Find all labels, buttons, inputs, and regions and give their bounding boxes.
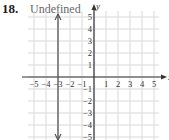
y-tick-label: 3 [88,36,92,46]
x-tick-label: 1 [104,79,108,89]
x-tick-label: 5 [152,79,156,89]
y-tick-label: 1 [88,60,92,70]
coordinate-plane: xy −5−4−3−2−11234554321−1−2−3−4−5 [0,0,169,140]
x-axis-arrow-icon [161,75,167,80]
axes: xy [22,1,169,140]
y-tick-label: 2 [88,48,92,58]
x-tick-label: −4 [41,79,51,89]
y-tick-label: 5 [88,12,92,22]
y-tick-label: −4 [83,120,93,130]
y-tick-label: −5 [83,132,92,140]
x-tick-label: −5 [29,79,38,89]
x-axis-label: x [167,72,169,82]
y-axis-label: y [95,1,100,11]
tick-labels: −5−4−3−2−11234554321−1−2−3−4−5 [29,12,156,140]
y-tick-label: −1 [83,84,92,94]
x-tick-label: 2 [116,79,120,89]
x-tick-label: −2 [65,79,74,89]
y-tick-label: −2 [83,96,92,106]
x-tick-label: 4 [140,79,145,89]
x-tick-label: 3 [128,79,132,89]
y-tick-label: −3 [83,108,92,118]
